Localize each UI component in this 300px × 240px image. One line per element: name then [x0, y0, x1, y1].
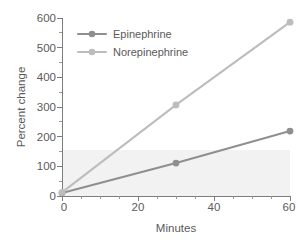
x-axis-title: Minutes	[156, 222, 197, 234]
line-chart: 600 500 400 300 200 100 0 0 20 40 60 Per…	[0, 0, 300, 240]
y-axis-title: Percent change	[15, 67, 27, 148]
y-tick-label-100: 100	[37, 160, 56, 172]
y-tick-label-500: 500	[37, 42, 56, 54]
data-point-norepinephrine-60	[287, 19, 294, 26]
y-tick-label-400: 400	[37, 71, 56, 83]
y-tick-label-300: 300	[37, 101, 56, 113]
legend-label-epinephrine: Epinephrine	[113, 28, 172, 40]
data-point-epinephrine-30	[173, 160, 180, 167]
y-tick-label-200: 200	[37, 131, 56, 143]
x-tick-label-0: 0	[61, 201, 67, 213]
x-axis-tick-labels: 0 20 40 60	[61, 201, 296, 213]
y-tick-label-0: 0	[50, 190, 56, 202]
legend-entry-epinephrine: Epinephrine	[78, 28, 172, 40]
x-tick-label-40: 40	[208, 201, 221, 213]
x-tick-label-60: 60	[283, 201, 296, 213]
chart-container: 600 500 400 300 200 100 0 0 20 40 60 Per…	[0, 0, 300, 240]
x-axis-ticks	[62, 196, 290, 201]
data-point-norepinephrine-0	[59, 189, 66, 196]
legend-marker-norepinephrine	[89, 49, 96, 56]
legend-label-norepinephrine: Norepinephrine	[113, 46, 188, 58]
y-tick-label-600: 600	[37, 12, 56, 24]
legend-marker-epinephrine	[89, 31, 96, 38]
y-axis-ticks	[57, 18, 62, 196]
chart-legend: Epinephrine Norepinephrine	[78, 28, 188, 58]
legend-entry-norepinephrine: Norepinephrine	[78, 46, 188, 58]
data-point-epinephrine-60	[287, 128, 294, 135]
y-axis-tick-labels: 600 500 400 300 200 100 0	[37, 12, 56, 202]
data-point-norepinephrine-30	[173, 102, 180, 109]
x-tick-label-20: 20	[132, 201, 145, 213]
shaded-band	[62, 150, 290, 196]
